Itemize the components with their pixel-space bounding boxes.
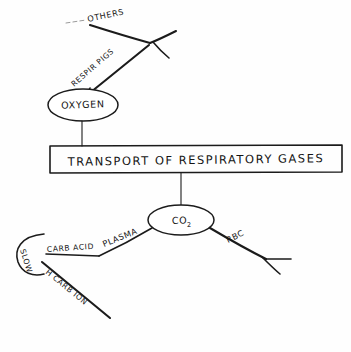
- concept-map-svg: OTHERS RESPIR PIGS OXYGEN TRANSPORT OF R…: [0, 0, 351, 352]
- label-co2-subscript: 2: [187, 221, 192, 229]
- label-oxygen: OXYGEN: [61, 98, 105, 111]
- edge-upper-right-arm: [150, 31, 176, 43]
- label-slow: SLOW: [18, 248, 34, 274]
- label-respir-pigs: RESPIR PIGS: [69, 47, 115, 89]
- others-dashed-leader: [66, 20, 86, 23]
- label-h-carb-ion: H CARB ION: [44, 268, 90, 307]
- label-co2: CO: [172, 214, 188, 226]
- label-others: OTHERS: [86, 6, 125, 24]
- diagram-canvas: OTHERS RESPIR PIGS OXYGEN TRANSPORT OF R…: [0, 0, 351, 352]
- edge-upper-right-tick: [153, 42, 169, 58]
- edge-others-line: [90, 25, 150, 43]
- label-carb-acid: CARB ACID: [47, 242, 95, 254]
- edge-plasma-horizontal: [46, 254, 99, 256]
- label-central-box: TRANSPORT OF RESPIRATORY GASES: [67, 151, 325, 169]
